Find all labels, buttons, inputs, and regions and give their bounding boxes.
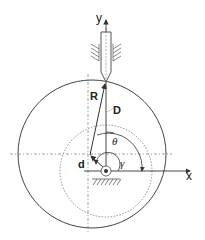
pivot-inner <box>104 169 108 173</box>
follower-guide-left-hatch <box>91 44 99 61</box>
R-label: R <box>90 90 98 102</box>
cam-follower-diagram: y x R D d θ γ <box>0 0 205 240</box>
gamma-label: γ <box>120 157 125 169</box>
follower-guide-right-hatch <box>113 44 121 61</box>
d-label: d <box>78 158 85 170</box>
D-label: D <box>113 104 121 116</box>
y-axis-label: y <box>96 11 102 25</box>
theta-label: θ <box>112 135 118 147</box>
ground-hatch <box>92 179 121 185</box>
x-axis-label: x <box>186 169 192 183</box>
